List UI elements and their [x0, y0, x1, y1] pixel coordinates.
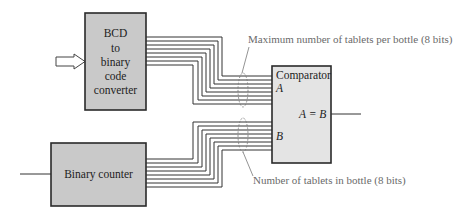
top-bus-ellipse: [238, 73, 248, 107]
bcd-converter-block: BCD to binary code converter: [85, 13, 146, 110]
bottom-bus-ellipse: [238, 118, 248, 152]
top-bus-leader: [242, 47, 249, 73]
top-bus-wires: [146, 37, 272, 104]
comparator-input-b: B: [276, 130, 283, 142]
bcd-line-2: to: [111, 42, 120, 54]
bcd-line-5: converter: [94, 84, 138, 96]
input-arrow-icon: [56, 54, 85, 69]
bottom-bus-leader: [243, 152, 253, 176]
bcd-line-4: code: [105, 70, 127, 82]
comparator-output-label: A = B: [298, 108, 326, 120]
binary-counter-block: Binary counter: [20, 143, 146, 206]
comparator-input-a: A: [275, 82, 284, 94]
binary-counter-label: Binary counter: [64, 168, 133, 181]
comparator-title: Comparator: [276, 69, 331, 82]
bottom-bus-annotation: Number of tablets in bottle (8 bits): [253, 174, 406, 187]
bcd-line-3: binary: [101, 56, 131, 69]
comparator-block: Comparator A A = B B: [272, 66, 361, 163]
bcd-line-1: BCD: [104, 27, 128, 39]
block-diagram: BCD to binary code converter Binary coun…: [0, 0, 457, 214]
top-bus-annotation: Maximum number of tablets per bottle (8 …: [248, 33, 453, 46]
